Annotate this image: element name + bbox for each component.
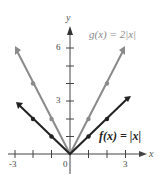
y-axis-label: y [66,12,70,23]
f-legend-label: f(x) = |x| [99,129,141,144]
x-tick-0: 0 [63,159,68,169]
y-tick-6: 6 [56,42,61,52]
chart-canvas [0,0,164,184]
x-tick-neg3: -3 [9,159,17,169]
x-axis-label: x [149,148,153,159]
y-tick-3: 3 [56,95,61,105]
y-axis-arrow-icon [67,26,73,35]
x-tick-3: 3 [123,159,128,169]
g-legend-label: g(x) = 2|x| [89,28,136,40]
x-axis-arrow-icon [139,151,147,157]
